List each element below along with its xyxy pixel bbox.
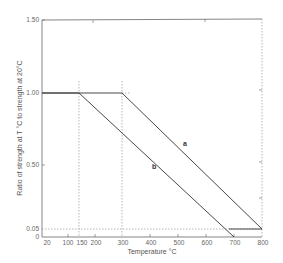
y-tick-label: 0.50 — [26, 161, 39, 168]
y-tick-label: 1.00 — [26, 89, 39, 96]
x-tick-label: 400 — [146, 239, 157, 246]
x-tick-label: 100 — [63, 239, 74, 246]
chart: 1.50 1.00 0.50 0.05 0 20 100 150 200 300… — [0, 0, 283, 263]
right-ticks — [259, 90, 262, 198]
y-tick-label: 1.50 — [26, 16, 39, 23]
reference-lines — [42, 81, 262, 237]
x-axis: 20 100 150 200 300 400 500 600 700 800 — [43, 234, 268, 246]
x-tick-label: 150 — [77, 239, 88, 246]
x-tick-label: 600 — [202, 239, 213, 246]
x-tick-label: 500 — [174, 239, 185, 246]
x-axis-label: Temperature °C — [127, 248, 176, 256]
x-tick-label: 800 — [258, 239, 269, 246]
y-tick-label: 0 — [35, 233, 39, 240]
y-tick-label: 0.05 — [26, 225, 39, 232]
x-tick-label: 20 — [43, 239, 51, 246]
y-axis-label: Ratio of strength at T °C to strength at… — [16, 60, 24, 195]
series-a-label: a — [183, 140, 187, 147]
x-tick-label: 200 — [91, 239, 102, 246]
x-tick-label: 700 — [230, 239, 241, 246]
x-tick-label: 300 — [118, 239, 129, 246]
series-b-label: b — [152, 163, 156, 170]
plot-frame — [42, 19, 262, 237]
